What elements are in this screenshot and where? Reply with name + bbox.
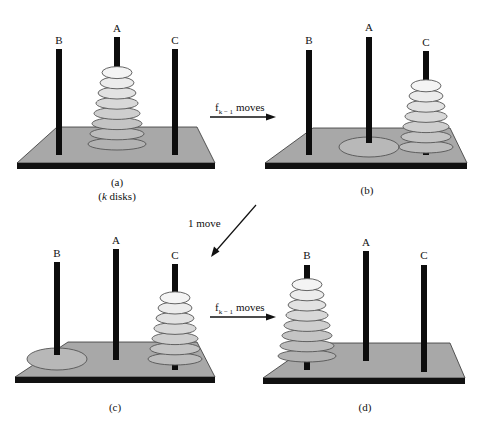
platform-edge bbox=[17, 163, 215, 169]
peg-label-C: C bbox=[171, 249, 178, 261]
peg-label-C: C bbox=[422, 36, 429, 48]
peg-A bbox=[113, 249, 119, 360]
panel-a: BAC bbox=[17, 22, 215, 169]
arrow-a-b-label: fk − 1 moves bbox=[215, 101, 265, 116]
arrow-c-to-d: fk − 1 moves bbox=[210, 301, 276, 321]
arrow-head-icon bbox=[266, 314, 276, 321]
disk bbox=[292, 279, 322, 291]
peg-label-B: B bbox=[55, 34, 62, 46]
disk bbox=[102, 67, 132, 79]
platform-edge bbox=[265, 163, 467, 169]
peg-label-A: A bbox=[112, 234, 120, 246]
disk bbox=[411, 80, 441, 92]
arrow-line bbox=[215, 205, 256, 252]
peg-A bbox=[366, 37, 372, 143]
peg-C bbox=[421, 265, 427, 372]
platform-edge bbox=[15, 377, 215, 383]
arrow-c-d-label: fk − 1 moves bbox=[215, 301, 265, 316]
peg-B bbox=[306, 50, 312, 155]
caption-b: (b) bbox=[361, 184, 374, 197]
tower-of-hanoi-diagram: BACBACBACBAC fk − 1 moves 1 move fk − 1 … bbox=[0, 0, 487, 428]
arrow-b-c-label: 1 move bbox=[188, 217, 221, 229]
caption-a: (a) bbox=[111, 176, 124, 189]
peg-C bbox=[172, 49, 178, 155]
peg-label-A: A bbox=[113, 22, 121, 34]
panel-d: BAC bbox=[263, 236, 465, 384]
peg-label-B: B bbox=[305, 34, 312, 46]
peg-B bbox=[56, 49, 62, 155]
arrow-b-to-c: 1 move bbox=[188, 205, 256, 257]
caption-a-sub: (k disks) bbox=[98, 190, 136, 203]
caption-c: (c) bbox=[109, 401, 122, 414]
peg-label-A: A bbox=[365, 21, 373, 33]
disk bbox=[160, 292, 190, 304]
arrow-head-icon bbox=[266, 114, 276, 121]
peg-A bbox=[363, 251, 369, 361]
peg-label-C: C bbox=[420, 249, 427, 261]
panel-c: BAC bbox=[15, 234, 215, 383]
panel-b: BAC bbox=[265, 21, 467, 169]
peg-label-A: A bbox=[362, 236, 370, 248]
caption-d: (d) bbox=[359, 401, 372, 414]
peg-label-B: B bbox=[53, 247, 60, 259]
arrow-a-to-b: fk − 1 moves bbox=[210, 101, 276, 121]
platform-edge bbox=[263, 378, 465, 384]
peg-label-C: C bbox=[171, 34, 178, 46]
peg-label-B: B bbox=[303, 249, 310, 261]
peg-B bbox=[54, 262, 60, 355]
